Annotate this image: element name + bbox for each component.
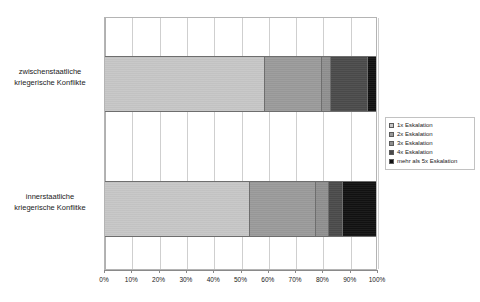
x-tick-mark (131, 270, 132, 273)
category-label-line-2: kriegerische Konflikte (0, 77, 100, 88)
legend: 1x Eskalation2x Eskalation3x Eskalation4… (385, 117, 475, 170)
bar-segment (322, 57, 331, 111)
x-tick-mark (350, 270, 351, 273)
legend-item: 1x Eskalation (389, 121, 471, 130)
plot-area (104, 17, 377, 270)
bar-segment (343, 182, 376, 236)
bar-segment (265, 57, 322, 111)
legend-swatch-icon (389, 123, 394, 128)
legend-item-label: mehr als 5x Eskalation (397, 157, 457, 166)
legend-item-label: 2x Eskalation (397, 130, 433, 139)
legend-swatch-icon (389, 132, 394, 137)
stacked-bar-chart: zwischenstaatliche kriegerische Konflikt… (0, 0, 480, 302)
category-label-line-1: zwischenstaatliche (0, 66, 100, 77)
x-tick-label: 40% (207, 276, 220, 283)
legend-swatch-icon (389, 150, 394, 155)
legend-item-label: 1x Eskalation (397, 121, 433, 130)
x-tick-label: 70% (289, 276, 302, 283)
category-label-innerstaatliche: innerstaatliche kriegerische Konflitke (0, 191, 100, 213)
bar-segment (331, 57, 368, 111)
gridline-100 (378, 18, 379, 269)
x-tick-label: 0% (99, 276, 108, 283)
cropped-title-remnant (130, 0, 370, 3)
x-tick-label: 90% (343, 276, 356, 283)
table-row (105, 181, 376, 237)
x-tick-mark (159, 270, 160, 273)
legend-item-label: 3x Eskalation (397, 139, 433, 148)
legend-item: mehr als 5x Eskalation (389, 157, 471, 166)
category-label-line-2: kriegerische Konflitke (0, 202, 100, 213)
category-label-zwischenstaatliche: zwischenstaatliche kriegerische Konflikt… (0, 66, 100, 88)
x-tick-label: 60% (261, 276, 274, 283)
x-tick-mark (241, 270, 242, 273)
bar-segment (105, 182, 250, 236)
legend-item: 4x Eskalation (389, 148, 471, 157)
table-row (105, 56, 376, 112)
x-tick-mark (268, 270, 269, 273)
x-tick-mark (186, 270, 187, 273)
legend-item: 3x Eskalation (389, 139, 471, 148)
bar-segment (316, 182, 328, 236)
bar-segment (329, 182, 344, 236)
bar-segment (105, 57, 265, 111)
x-tick-mark (104, 270, 105, 273)
x-tick-label: 100% (369, 276, 386, 283)
x-tick-label: 80% (316, 276, 329, 283)
bar-segment (250, 182, 316, 236)
x-tick-label: 20% (152, 276, 165, 283)
x-tick-label: 10% (125, 276, 138, 283)
x-tick-label: 30% (179, 276, 192, 283)
x-tick-mark (295, 270, 296, 273)
x-tick-mark (213, 270, 214, 273)
legend-swatch-icon (389, 141, 394, 146)
x-tick-mark (322, 270, 323, 273)
legend-item: 2x Eskalation (389, 130, 471, 139)
x-tick-mark (377, 270, 378, 273)
bar-segment (368, 57, 376, 111)
legend-item-label: 4x Eskalation (397, 148, 433, 157)
legend-swatch-icon (389, 159, 394, 164)
category-label-line-1: innerstaatliche (0, 191, 100, 202)
x-tick-label: 50% (234, 276, 247, 283)
